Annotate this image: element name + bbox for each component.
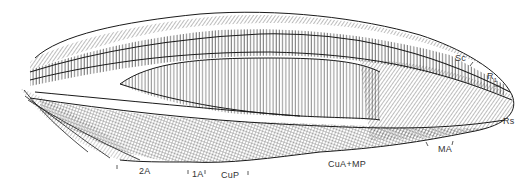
label-r1-base: R — [487, 71, 494, 81]
wing-drawing — [0, 0, 527, 192]
label-cua-mp: CuA+MP — [328, 160, 366, 169]
label-r1-sub: 1 — [494, 77, 498, 83]
label-r1: R1 — [487, 72, 497, 83]
label-2a: 2A — [139, 167, 151, 176]
wing-diagram: Sc R1 Rs MA CuA+MP CuP 1A 2A — [0, 0, 527, 192]
label-1a: 1A — [192, 170, 204, 179]
label-sc: Sc — [455, 54, 466, 63]
wing-membrane — [20, 15, 515, 162]
label-cup: CuP — [221, 171, 239, 180]
label-rs: Rs — [503, 117, 515, 126]
label-ma: MA — [438, 145, 452, 154]
